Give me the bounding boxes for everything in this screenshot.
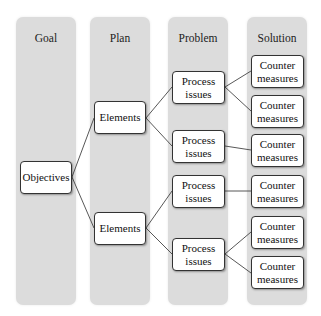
node-counter-measures-1: Counter measures <box>251 55 304 88</box>
node-process-issues-1: Process issues <box>172 71 225 104</box>
node-objectives: Objectives <box>20 161 72 194</box>
node-counter-measures-6: Counter measures <box>251 256 304 289</box>
node-elements-1: Elements <box>94 101 146 134</box>
node-process-issues-2: Process issues <box>172 130 225 163</box>
node-process-issues-4: Process issues <box>172 238 225 271</box>
node-counter-measures-5: Counter measures <box>251 216 304 249</box>
node-process-issues-3: Process issues <box>172 175 225 208</box>
node-elements-2: Elements <box>94 212 146 245</box>
node-counter-measures-3: Counter measures <box>251 134 304 167</box>
node-counter-measures-4: Counter measures <box>251 175 304 208</box>
node-counter-measures-2: Counter measures <box>251 95 304 128</box>
